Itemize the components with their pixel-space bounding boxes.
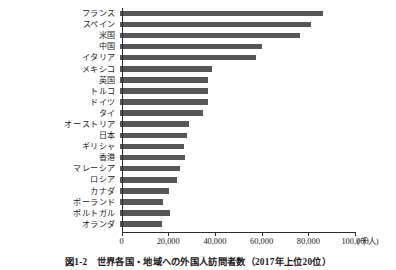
bar [120,11,323,17]
bar-category-label: 日本 [0,131,120,140]
bar-rows: フランススペイン米国中国イタリアメキシコ英国トルコドイツタイオーストリア日本ギリ… [0,8,396,230]
bar-row: 日本 [0,130,396,141]
bar-category-label: マレーシア [0,164,120,173]
bar-row: スペイン [0,19,396,30]
bar-track [120,19,396,30]
bar [120,110,203,116]
bar-track [120,174,396,185]
bar [120,155,185,161]
bar [120,33,300,39]
bar-row: マレーシア [0,163,396,174]
bar-category-label: トルコ [0,87,120,96]
bar-category-label: 米国 [0,31,120,40]
bar-category-label: ポーランド [0,198,120,207]
x-axis-tick-mark [355,232,356,236]
x-axis-tick-label: 60,000 [250,237,273,247]
bar-track [120,208,396,219]
bar-track [120,108,396,119]
x-axis-tick-mark [122,232,123,236]
bar-row: オーストリア [0,119,396,130]
bar [120,221,162,227]
bar-row: メキシコ [0,63,396,74]
bar-category-label: ギリシャ [0,142,120,151]
bar-row: 米国 [0,30,396,41]
bar-row: ポーランド [0,197,396,208]
bar-category-label: イタリア [0,53,120,62]
x-axis-tick-mark [168,232,169,236]
bar-category-label: フランス [0,9,120,18]
bar-track [120,52,396,63]
bar-row: イタリア [0,52,396,63]
bar [120,88,208,94]
bar-track [120,186,396,197]
bar [120,99,208,105]
bar-track [120,63,396,74]
chart-plot-area: フランススペイン米国中国イタリアメキシコ英国トルコドイツタイオーストリア日本ギリ… [0,0,396,240]
bar [120,210,170,216]
bar [120,55,256,61]
x-axis-line [122,232,356,233]
bar-track [120,8,396,19]
bar-category-label: ドイツ [0,98,120,107]
y-axis-line [122,8,123,232]
bar-track [120,30,396,41]
x-axis-unit-label: (千人) [357,237,379,247]
x-axis-tick-label: 0 [119,237,123,247]
bar-track [120,197,396,208]
bar [120,22,311,28]
figure-container: フランススペイン米国中国イタリアメキシコ英国トルコドイツタイオーストリア日本ギリ… [0,0,396,270]
bar-category-label: メキシコ [0,65,120,74]
bar-category-label: オランダ [0,220,120,229]
bar [120,188,169,194]
bar-row: 英国 [0,75,396,86]
bar-track [120,119,396,130]
bar-row: フランス [0,8,396,19]
bar-category-label: タイ [0,109,120,118]
bar-track [120,41,396,52]
x-axis-tick-mark [262,232,263,236]
bar-category-label: 英国 [0,76,120,85]
bar [120,199,163,205]
bar-track [120,86,396,97]
figure-caption: 図1-2 世界各国・地域への外国人訪問者数（2017年上位20位） [0,256,396,268]
bar-category-label: オーストリア [0,120,120,129]
bar [120,177,177,183]
bar [120,66,212,72]
bar-row: オランダ [0,219,396,230]
bar [120,144,184,150]
bar-track [120,130,396,141]
bar-track [120,141,396,152]
x-axis-tick-mark [308,232,309,236]
bar-row: 香港 [0,152,396,163]
bar-category-label: 中国 [0,42,120,51]
bar-category-label: スペイン [0,20,120,29]
bar-category-label: ポルトガル [0,209,120,218]
bar-track [120,219,396,230]
bar-category-label: ロシア [0,175,120,184]
bar-row: ギリシャ [0,141,396,152]
bar-track [120,75,396,86]
bar-track [120,163,396,174]
bar-row: カナダ [0,186,396,197]
bar-category-label: 香港 [0,153,120,162]
bar [120,166,180,172]
x-axis-tick-mark [215,232,216,236]
x-axis-tick-label: 40,000 [203,237,226,247]
bar-row: トルコ [0,86,396,97]
bar [120,133,187,139]
x-axis-tick-label: 80,000 [297,237,320,247]
bar [120,44,262,50]
bar-track [120,152,396,163]
bar-row: タイ [0,108,396,119]
bar-category-label: カナダ [0,187,120,196]
bar-row: ロシア [0,174,396,185]
bar-track [120,97,396,108]
bar [120,121,189,127]
x-axis-tick-label: 20,000 [157,237,180,247]
bar [120,77,208,83]
bar-row: ポルトガル [0,208,396,219]
bar-row: ドイツ [0,97,396,108]
bar-row: 中国 [0,41,396,52]
